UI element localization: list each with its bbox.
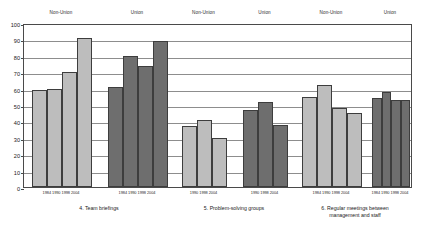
bar [372,98,382,187]
y-axis-tick-mark [21,173,24,174]
y-axis-tick-mark [21,41,24,42]
category-caption: 4. Team briefings [79,205,118,212]
y-axis-tick-mark [21,123,24,124]
bar [212,138,227,187]
bar [302,97,317,187]
y-axis-tick-mark [21,189,24,190]
bar-chart: Non-UnionUnionNon-UnionUnionNon-UnionUni… [0,0,424,235]
bar [77,38,92,187]
group-header-union: Union [258,10,271,15]
bar [273,125,288,187]
y-axis-tick-mark [21,25,24,26]
y-axis-tick-label: 70 [14,71,20,77]
y-axis-tick-label: 10 [14,170,20,176]
group-header-non-union: Non-Union [50,10,73,15]
group-header-non-union: Non-Union [320,10,343,15]
bar [108,87,123,187]
year-tick-group: 1984 1990 1998 2004 [119,190,156,195]
category-caption: 6. Regular meetings between management a… [321,205,388,219]
bar [258,102,273,187]
y-axis-tick-label: 0 [17,186,20,192]
y-axis-tick-label: 80 [14,55,20,61]
bar [182,126,197,187]
y-axis-tick-label: 30 [14,137,20,143]
bar [317,85,332,187]
y-axis-tick-mark [21,140,24,141]
y-axis-tick-label: 90 [14,38,20,44]
y-axis-tick-mark [21,156,24,157]
y-axis-tick-label: 50 [14,104,20,110]
y-axis-tick-mark [21,58,24,59]
bar [391,100,401,187]
category-caption: 5. Problem-solving groups [204,205,264,212]
y-axis-tick-mark [21,91,24,92]
plot-area: 1009080706050403020100 [23,24,412,188]
bar [123,56,138,187]
bar [47,89,62,187]
group-header-union: Union [384,10,397,15]
year-tick-group: 1984 1990 1998 2004 [372,190,409,195]
y-axis-tick-mark [21,107,24,108]
year-tick-group: 1990 1998 2004 [251,190,278,195]
year-tick-group: 1984 1990 1998 2004 [313,190,350,195]
bar [382,92,392,187]
group-header-non-union: Non-Union [192,10,215,15]
y-axis-tick-label: 100 [11,22,20,28]
bar [153,41,168,187]
bar [62,72,77,187]
y-axis-tick-label: 20 [14,153,20,159]
y-axis-tick-label: 60 [14,88,20,94]
year-tick-group: 1990 1998 2004 [190,190,217,195]
bar [332,108,347,187]
year-tick-group: 1984 1990 1998 2004 [43,190,80,195]
y-axis-tick-label: 40 [14,120,20,126]
bar [243,110,258,187]
bar [138,66,153,187]
bar [347,113,362,187]
y-axis-tick-mark [21,74,24,75]
bar [401,100,411,187]
bar [32,90,47,187]
bar [197,120,212,187]
group-header-union: Union [131,10,144,15]
